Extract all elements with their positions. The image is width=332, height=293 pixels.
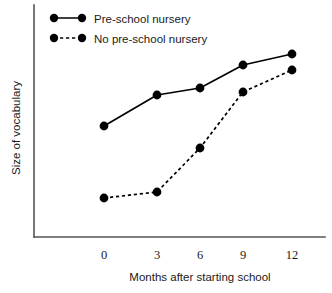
data-point-marker (100, 194, 109, 203)
data-point-marker (153, 91, 162, 100)
legend-marker-end-icon (78, 34, 86, 42)
x-tick-label-3: 3 (154, 248, 160, 262)
data-point-marker (196, 84, 205, 93)
vocabulary-line-chart: Pre-school nursery No pre-school nursery… (0, 0, 332, 293)
legend-marker-end-icon (78, 14, 86, 22)
series-pre-school-nursery (100, 50, 297, 131)
x-axis-title: Months after starting school (129, 271, 270, 283)
x-tick-label-9: 9 (240, 248, 246, 262)
x-tick-label-12: 12 (286, 248, 299, 262)
data-point-marker (288, 50, 297, 59)
legend-item-no-pre-school-nursery: No pre-school nursery (50, 33, 208, 45)
legend: Pre-school nursery No pre-school nursery (50, 13, 208, 45)
chart-canvas: Pre-school nursery No pre-school nursery… (0, 0, 332, 293)
data-point-marker (239, 88, 248, 97)
x-tick-label-0: 0 (101, 248, 107, 262)
legend-label-pre-school-nursery: Pre-school nursery (94, 13, 191, 25)
x-tick-label-6: 6 (197, 248, 203, 262)
legend-item-pre-school-nursery: Pre-school nursery (50, 13, 191, 25)
data-point-marker (196, 144, 205, 153)
data-point-marker (239, 61, 248, 70)
y-axis-title: Size of vocabulary (10, 81, 22, 175)
data-point-marker (153, 188, 162, 197)
data-point-marker (288, 66, 297, 75)
legend-label-no-pre-school-nursery: No pre-school nursery (94, 33, 207, 45)
data-point-marker (100, 122, 109, 131)
x-tick-labels: 0 3 6 9 12 (101, 248, 298, 262)
